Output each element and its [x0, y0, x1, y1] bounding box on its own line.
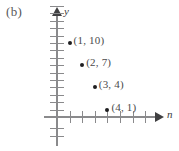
data-point	[68, 41, 72, 45]
y-axis-tick	[50, 50, 64, 51]
data-point	[93, 85, 97, 89]
y-axis-tick	[50, 36, 64, 37]
y-axis-tick	[50, 87, 64, 88]
y-axis-tick	[50, 95, 64, 96]
x-axis-tick	[82, 111, 83, 123]
y-axis-label: y	[64, 5, 69, 17]
y-axis-tick	[50, 6, 64, 7]
x-axis-label: n	[167, 108, 173, 120]
data-point	[105, 108, 109, 112]
x-axis-tick	[145, 111, 146, 123]
y-axis-tick	[50, 73, 64, 74]
data-point-label: (2, 7)	[86, 56, 111, 68]
y-axis-tick	[50, 58, 64, 59]
y-axis-arrow-icon	[52, 7, 62, 16]
y-axis-tick	[50, 13, 64, 14]
x-axis-line	[44, 116, 160, 118]
y-axis-tick	[50, 80, 64, 81]
y-axis-tick	[50, 136, 64, 137]
scatter-plot-figure: (b) y n (1, 10)(2, 7)(3, 4)(4, 1)	[0, 0, 179, 151]
y-axis-tick	[50, 128, 64, 129]
y-axis-tick	[50, 43, 64, 44]
x-axis-tick	[107, 111, 108, 123]
data-point-label: (1, 10)	[74, 34, 105, 46]
x-axis-tick	[95, 111, 96, 123]
data-point	[80, 63, 84, 67]
x-axis-tick	[70, 111, 71, 123]
y-axis-tick	[50, 28, 64, 29]
y-axis-tick	[50, 21, 64, 22]
y-axis-tick	[50, 65, 64, 66]
data-point-label: (3, 4)	[99, 78, 124, 90]
part-label: (b)	[6, 4, 22, 20]
y-axis-tick	[50, 102, 64, 103]
data-point-label: (4, 1)	[111, 101, 136, 113]
y-axis-tick	[50, 110, 64, 111]
x-axis-arrow-icon	[155, 112, 164, 122]
